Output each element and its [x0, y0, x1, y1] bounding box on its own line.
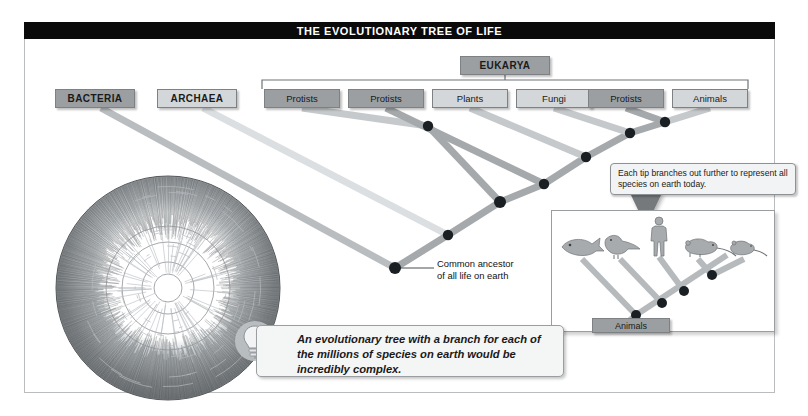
- domain-box-bacteria[interactable]: BACTERIA: [55, 89, 135, 108]
- domain-label-eukarya: EUKARYA: [480, 60, 531, 71]
- node-fungi-clade: [625, 128, 635, 138]
- kingdom-box-animals[interactable]: Animals: [672, 89, 748, 108]
- common-ancestor-line-2: of all life on earth: [437, 270, 567, 282]
- inset-animals-label-text: Animals: [615, 321, 647, 331]
- human-icon: [651, 217, 667, 256]
- node-archaea-eukarya: [443, 230, 453, 240]
- kingdom-label-animals: Animals: [693, 93, 727, 104]
- fish-icon: [562, 238, 604, 256]
- kingdom-box-protists-3[interactable]: Protists: [588, 89, 664, 108]
- inset-animals-label[interactable]: Animals: [592, 318, 670, 333]
- tip-bubble: An evolutionary tree with a branch for e…: [256, 325, 564, 377]
- rat-icon: [685, 239, 736, 257]
- bird-icon: [605, 235, 640, 259]
- mouse-icon: [731, 241, 767, 256]
- branch-protist1-down: [428, 126, 500, 202]
- figure-title-bar: THE EVOLUTIONARY TREE OF LIFE: [24, 22, 775, 39]
- node-plants-clade: [581, 152, 591, 162]
- animals-inset-panel: [551, 210, 775, 332]
- kingdom-box-plants[interactable]: Plants: [432, 89, 508, 108]
- branch-animals: [665, 108, 710, 122]
- tip-bubble-text: An evolutionary tree with a branch for e…: [297, 333, 541, 375]
- inset-branch-bird: [620, 259, 662, 303]
- branch-protist3: [626, 108, 665, 122]
- common-ancestor-annotation: Common ancestor of all life on earth: [437, 258, 567, 281]
- page-title: THE EVOLUTIONARY TREE OF LIFE: [297, 25, 502, 37]
- inset-spine: [636, 255, 727, 315]
- spine-n2-to-n3: [448, 202, 500, 235]
- inset-node-4: [707, 270, 717, 280]
- kingdom-label-protists-1: Protists: [286, 93, 318, 104]
- kingdom-box-protists-1[interactable]: Protists: [264, 89, 340, 108]
- kingdom-box-protists-2[interactable]: Protists: [348, 89, 424, 108]
- domain-box-eukarya[interactable]: EUKARYA: [460, 56, 550, 75]
- spine-n4-to-n5: [544, 157, 586, 184]
- common-ancestor-line-1: Common ancestor: [437, 258, 567, 270]
- animals-inset-svg: [552, 211, 776, 333]
- inset-node-3: [679, 286, 689, 296]
- node-protist3-animals: [660, 117, 670, 127]
- circular-phylogram: [56, 176, 280, 400]
- domain-label-archaea: ARCHAEA: [171, 93, 224, 104]
- kingdom-box-fungi[interactable]: Fungi: [516, 89, 592, 108]
- spine-n5-to-n6: [586, 133, 630, 157]
- domain-box-archaea[interactable]: ARCHAEA: [157, 89, 237, 108]
- node-common-ancestor: [389, 262, 401, 274]
- kingdom-label-fungi: Fungi: [542, 93, 566, 104]
- inset-node-2: [657, 298, 667, 308]
- domain-label-bacteria: BACTERIA: [68, 93, 123, 104]
- tip-branches-callout: Each tip branches out further to represe…: [610, 163, 796, 195]
- spine-n3-to-n4: [500, 184, 544, 202]
- node-protist2-clade: [539, 179, 549, 189]
- branch-fungi: [554, 108, 630, 133]
- tip-branches-callout-text: Each tip branches out further to represe…: [618, 168, 788, 189]
- node-eukarya-root: [494, 196, 506, 208]
- figure-page: THE EVOLUTIONARY TREE OF LIFE BACTERIA A…: [0, 0, 808, 416]
- kingdom-label-plants: Plants: [457, 93, 483, 104]
- eukarya-bracket: [262, 75, 748, 89]
- node-protist1: [423, 121, 433, 131]
- kingdom-label-protists-3: Protists: [610, 93, 642, 104]
- branch-protist2: [386, 108, 544, 184]
- kingdom-label-protists-2: Protists: [370, 93, 402, 104]
